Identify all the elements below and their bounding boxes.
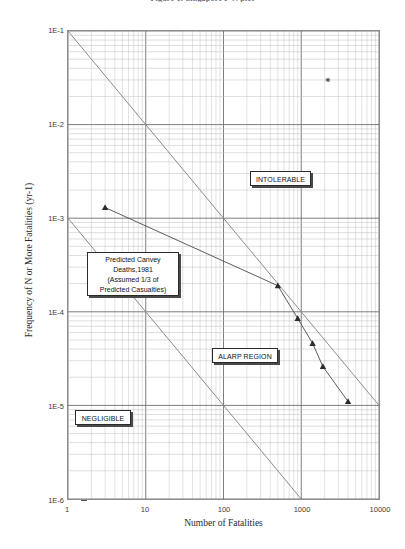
y-tick-label: 1E-1 [26, 26, 64, 35]
annotation-intolerable: INTOLERABLE [250, 171, 311, 186]
x-tick-label: 10 [141, 505, 149, 514]
x-axis-title: Number of Fatalities [67, 518, 380, 528]
y-axis-title: Frequency of N or More Fatalities (yr-1) [24, 145, 34, 375]
x-tick-label: 1000 [294, 505, 311, 514]
annotation-line: Predicted Canvey [91, 255, 175, 265]
annotation-alarp-region: ALARP REGION [212, 348, 278, 363]
annotation-line: Deaths,1981 [91, 265, 175, 275]
x-tick-label: 100 [218, 505, 231, 514]
annotation-predicted-canvey: Predicted Canvey Deaths,1981 (Assumed 1/… [87, 252, 179, 296]
y-tick-label: 1E-2 [26, 120, 64, 129]
annotation-line: Predicted Casualties) [91, 285, 175, 295]
y-tick-label: 1E-5 [26, 402, 64, 411]
x-tick-label: 1 [65, 505, 69, 514]
annotation-negligible: NEGLIGIBLE [75, 410, 131, 425]
x-tick-label: 10000 [370, 505, 391, 514]
fn-risk-chart: Figure 1: Singapore F-N plot 1E-1 1E-2 1… [0, 0, 405, 549]
y-tick-label: 1E-6 [26, 496, 64, 505]
y-tick-mark [81, 500, 87, 501]
annotation-line: (Assumed 1/3 of [91, 275, 175, 285]
